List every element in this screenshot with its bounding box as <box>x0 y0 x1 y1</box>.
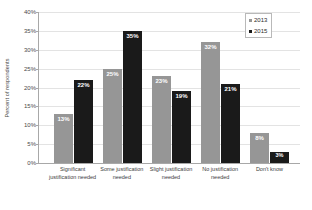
bar: 22% <box>74 80 93 163</box>
legend-label: 2015 <box>254 28 267 34</box>
bar-value-label: 19% <box>175 93 187 99</box>
y-axis-tick-label: 35% <box>24 28 36 34</box>
bar-group: 13%22% <box>49 12 98 163</box>
legend: 20132015 <box>245 13 272 38</box>
legend-swatch-icon <box>249 19 252 22</box>
bar: 25% <box>103 69 122 163</box>
bar: 8% <box>250 133 269 163</box>
bar-group: 25%35% <box>98 12 147 163</box>
x-axis-category-label: Don't know <box>245 166 294 208</box>
legend-swatch-icon <box>249 30 252 33</box>
x-axis-labels: Significant justification neededSome jus… <box>38 166 300 208</box>
x-axis-category-label: Significant justification needed <box>48 166 97 208</box>
bar-value-label: 22% <box>77 82 89 88</box>
chart-title-cropped <box>0 0 312 8</box>
bar-value-label: 32% <box>204 44 216 50</box>
bar-group: 23%19% <box>147 12 196 163</box>
bar-value-label: 13% <box>57 116 69 122</box>
bar-group: 32%21% <box>196 12 245 163</box>
y-axis-title: Percent of respondents <box>2 12 12 164</box>
y-axis-tick-label: 15% <box>24 103 36 109</box>
y-axis-tick-label: 20% <box>24 85 36 91</box>
legend-item[interactable]: 2015 <box>249 28 267 34</box>
y-axis-tick-mark <box>36 163 39 164</box>
bar: 13% <box>54 114 73 163</box>
bar-value-label: 21% <box>224 86 236 92</box>
x-axis-category-label: Some justification needed <box>97 166 146 208</box>
y-axis-tick-label: 10% <box>24 122 36 128</box>
bar: 35% <box>123 31 142 163</box>
bar-value-label: 25% <box>106 71 118 77</box>
y-axis-tick-label: 25% <box>24 66 36 72</box>
y-axis-tick-label: 5% <box>27 141 36 147</box>
bar: 21% <box>221 84 240 163</box>
y-axis-tick-label: 0% <box>27 160 36 166</box>
x-axis-category-label: Slight justification needed <box>146 166 195 208</box>
x-axis-category-label: No justification needed <box>196 166 245 208</box>
bar: 32% <box>201 42 220 163</box>
bar: 3% <box>270 152 289 163</box>
y-axis-title-label: Percent of respondents <box>4 58 10 117</box>
bar-value-label: 8% <box>255 135 264 141</box>
bar-chart: Percent of respondents 40%35%30%25%20%15… <box>0 0 312 210</box>
bar-value-label: 35% <box>126 33 138 39</box>
bar-value-label: 3% <box>276 153 284 159</box>
y-axis-tick-label: 30% <box>24 47 36 53</box>
bar: 23% <box>152 76 171 163</box>
bar: 19% <box>172 91 191 163</box>
y-axis-tick-label: 40% <box>24 9 36 15</box>
legend-item[interactable]: 2013 <box>249 17 267 23</box>
bar-value-label: 23% <box>155 78 167 84</box>
legend-label: 2013 <box>254 17 267 23</box>
